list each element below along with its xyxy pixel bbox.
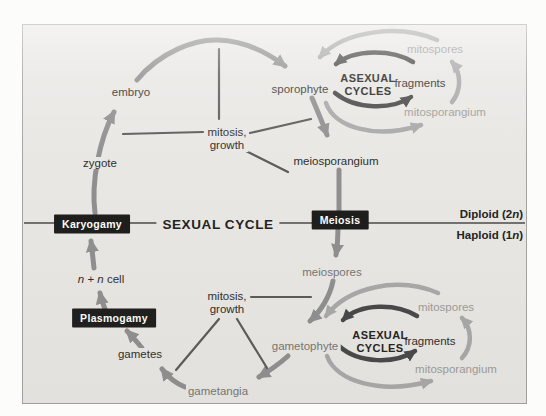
diploid-prefix: Diploid (2: [460, 208, 512, 220]
label-zygote: zygote: [81, 157, 119, 169]
line-mitosis-bottom-downright: [237, 319, 267, 368]
label-gametangia: gametangia: [186, 385, 250, 397]
arrow-mitosporangium-mitospores-bottom: [462, 318, 470, 358]
label-n-plus-n-cell: n + n cell: [76, 273, 126, 285]
arrow-plasmogamy-nncell: [100, 293, 105, 309]
line-mitosis-top-left: [123, 132, 203, 134]
label-meiospores: meiospores: [300, 266, 363, 278]
label-mitosis-growth-top: mitosis, growth: [206, 126, 249, 152]
mitosis-top-line2: growth: [208, 139, 247, 152]
line-mitosis-top-right: [250, 119, 311, 133]
mitosis-bottom-line2: growth: [208, 303, 247, 316]
line-mitosis-bottom-downleft: [176, 319, 219, 370]
asexual-bottom-line2: CYCLES: [352, 342, 407, 355]
mitosis-bottom-line1: mitosis,: [208, 290, 247, 303]
asexual-top-line1: ASEXUAL: [340, 72, 395, 85]
arrow-fragments-sporophyte: [336, 52, 413, 64]
karyogamy-box: Karyogamy: [54, 215, 130, 234]
arrow-meiosis-meiospores: [336, 229, 338, 255]
label-gametophyte: gametophyte: [270, 340, 341, 352]
diploid-suffix: ): [519, 208, 523, 220]
plasmogamy-box: Plasmogamy: [72, 309, 156, 328]
label-haploid: Haploid (1n): [455, 229, 525, 241]
label-mitosporangium-bottom: mitosporangium: [413, 363, 499, 375]
label-asexual-cycles-bottom: ASEXUAL CYCLES: [350, 329, 409, 355]
nncell-rest: cell: [104, 273, 124, 285]
asexual-top-line2: CYCLES: [340, 85, 395, 98]
label-asexual-cycles-top: ASEXUAL CYCLES: [338, 72, 397, 98]
haploid-prefix: Haploid (1: [457, 229, 513, 241]
arrow-mitosporangium-mitospores-top: [452, 62, 459, 102]
meiosis-box: Meiosis: [312, 211, 369, 230]
label-meiosporangium: meiosporangium: [291, 155, 380, 167]
asexual-bottom-line1: ASEXUAL: [352, 329, 407, 342]
label-mitosporangium-top: mitosporangium: [402, 106, 488, 118]
arrow-embryo-sporophyte-arc: [137, 40, 285, 80]
label-diploid: Diploid (2n): [458, 208, 525, 220]
arrow-gametes-plasmogamy: [127, 331, 142, 348]
label-mitospores-bottom: mitospores: [416, 301, 476, 313]
scanned-page: { "figure": { "type": "life-cycle-diagra…: [0, 0, 546, 416]
label-sporophyte: sporophyte: [270, 83, 331, 95]
arrow-gametophyte-gametangia: [259, 356, 288, 377]
label-mitosis-growth-bottom: mitosis, growth: [206, 290, 249, 316]
label-gametes: gametes: [116, 348, 164, 360]
arrow-gametangia-gametes: [162, 369, 185, 387]
haploid-n: n: [512, 229, 519, 241]
haploid-suffix: ): [519, 229, 523, 241]
label-fragments-top: fragments: [392, 77, 447, 89]
label-embryo: embryo: [110, 86, 152, 98]
arrow-fragments-gametophyte: [343, 307, 417, 320]
mitosis-top-line1: mitosis,: [208, 126, 247, 139]
nncell-plus: +: [84, 273, 97, 285]
label-sexual-cycle: SEXUAL CYCLE: [156, 219, 279, 231]
label-mitospores-top: mitospores: [405, 43, 465, 55]
line-mitosis-top-downright: [246, 151, 288, 172]
arrow-nncell-karyogamy: [91, 241, 94, 268]
label-fragments-bottom: fragments: [402, 335, 457, 347]
